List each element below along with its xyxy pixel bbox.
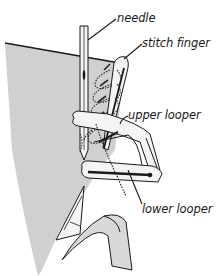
label-lower-looper: lower looper [142, 204, 212, 216]
needle [80, 26, 88, 160]
label-upper-looper: upper looper [128, 110, 201, 122]
label-needle: needle [117, 13, 155, 25]
label-stitch-finger: stitch finger [142, 38, 210, 50]
fabric-panel [5, 43, 125, 276]
